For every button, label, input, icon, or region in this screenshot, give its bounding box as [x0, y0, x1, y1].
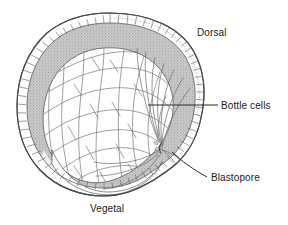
label-bottle-cells: Bottle cells [221, 101, 271, 111]
label-dorsal: Dorsal [197, 28, 227, 38]
label-blastopore: Blastopore [211, 173, 260, 183]
label-vegetal: Vegetal [90, 204, 124, 214]
figure-canvas: Dorsal Bottle cells Blastopore Vegetal [0, 0, 288, 225]
embryo-diagram [0, 0, 288, 225]
